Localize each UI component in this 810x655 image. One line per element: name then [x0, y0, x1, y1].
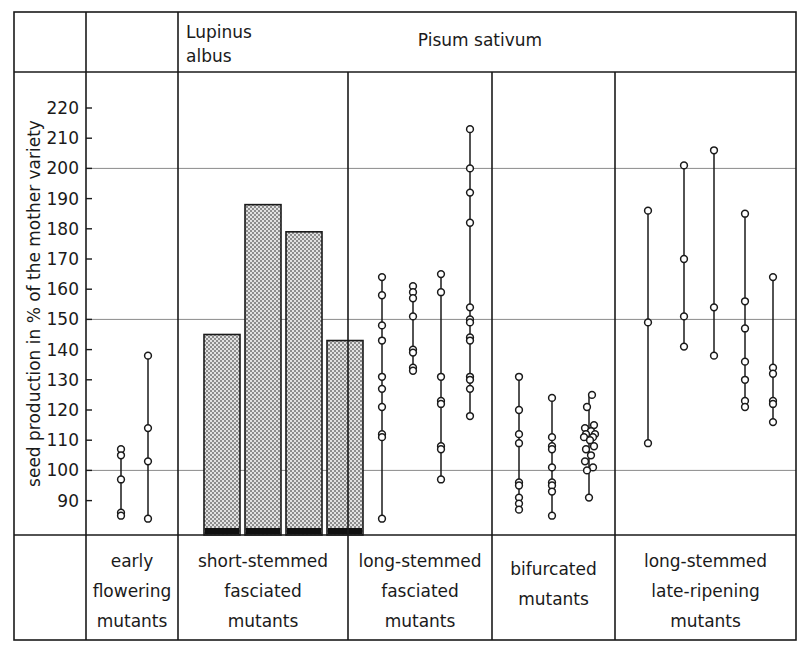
y-tick-label-130: 130 — [47, 370, 79, 390]
figure-root: 2202102001901801701601501401301201101009… — [0, 0, 810, 655]
data-point — [145, 515, 152, 522]
data-point — [549, 395, 556, 402]
footer-label-p2-l2: fasciated — [224, 581, 302, 601]
data-point — [516, 440, 523, 447]
data-point — [145, 425, 152, 432]
bar-3 — [286, 232, 322, 535]
data-point — [681, 313, 688, 320]
footer-label-p3-l2: fasciated — [381, 581, 459, 601]
data-point — [584, 404, 591, 411]
data-point — [645, 440, 652, 447]
data-point — [438, 373, 445, 380]
data-point — [467, 337, 474, 344]
y-tick-label-180: 180 — [47, 219, 79, 239]
data-point — [742, 298, 749, 305]
data-point — [742, 210, 749, 217]
bar-1 — [204, 335, 240, 536]
y-tick-label-160: 160 — [47, 279, 79, 299]
data-point — [582, 458, 589, 465]
y-tick-label-120: 120 — [47, 400, 79, 420]
data-point — [516, 373, 523, 380]
data-point — [681, 343, 688, 350]
data-point — [549, 434, 556, 441]
y-tick-label-190: 190 — [47, 189, 79, 209]
header-lupinus-line2: albus — [186, 46, 232, 66]
y-tick-label-140: 140 — [47, 340, 79, 360]
data-point — [379, 274, 386, 281]
data-point — [549, 464, 556, 471]
data-point — [588, 452, 595, 459]
footer-label-p1-l2: flowering — [93, 581, 172, 601]
bar-base-4 — [328, 528, 362, 534]
data-point — [379, 385, 386, 392]
data-point — [742, 325, 749, 332]
footer-label-p4-l2: mutants — [518, 589, 589, 609]
data-point — [379, 322, 386, 329]
data-point — [516, 407, 523, 414]
data-point — [549, 446, 556, 453]
data-point — [742, 358, 749, 365]
data-point — [549, 488, 556, 495]
data-point — [438, 271, 445, 278]
data-point — [467, 189, 474, 196]
y-tick-label-90: 90 — [57, 491, 79, 511]
data-point — [586, 494, 593, 501]
data-point — [379, 404, 386, 411]
footer-label-p3-l1: long-stemmed — [358, 551, 481, 571]
data-point — [770, 370, 777, 377]
data-point — [770, 401, 777, 408]
bar-4 — [327, 341, 363, 535]
data-point — [118, 476, 125, 483]
data-point — [145, 352, 152, 359]
footer-label-p2-l3: mutants — [228, 611, 299, 631]
bar-base-3 — [287, 528, 321, 534]
data-point — [438, 401, 445, 408]
data-point — [584, 467, 591, 474]
data-point — [118, 452, 125, 459]
data-point — [467, 413, 474, 420]
footer-label-p5-l3: mutants — [670, 611, 741, 631]
data-point — [589, 392, 596, 399]
header-pisum: Pisum sativum — [418, 30, 542, 50]
data-point — [410, 295, 417, 302]
data-point — [711, 147, 718, 154]
data-point — [711, 304, 718, 311]
y-tick-label-220: 220 — [47, 98, 79, 118]
data-point — [118, 512, 125, 519]
data-point — [770, 419, 777, 426]
data-point — [410, 313, 417, 320]
footer-label-p2-l1: short-stemmed — [198, 551, 328, 571]
data-point — [410, 349, 417, 356]
footer-label-p4-l1: bifurcated — [510, 559, 597, 579]
data-point — [516, 506, 523, 513]
data-point — [742, 404, 749, 411]
data-point — [379, 337, 386, 344]
data-point — [549, 512, 556, 519]
data-point — [645, 207, 652, 214]
y-axis-title: seed production in % of the mother varie… — [24, 120, 44, 487]
data-point — [467, 304, 474, 311]
y-tick-label-150: 150 — [47, 309, 79, 329]
bar-2 — [245, 205, 281, 535]
data-point — [645, 319, 652, 326]
data-point — [410, 367, 417, 374]
data-point — [467, 376, 474, 383]
data-point — [438, 476, 445, 483]
footer-label-p1-l1: early — [111, 551, 154, 571]
header-lupinus-line1: Lupinus — [186, 22, 252, 42]
bar-base-2 — [246, 528, 280, 534]
y-tick-label-170: 170 — [47, 249, 79, 269]
data-point — [467, 385, 474, 392]
data-point — [591, 443, 598, 450]
data-point — [516, 482, 523, 489]
data-point — [379, 292, 386, 299]
y-tick-label-200: 200 — [47, 158, 79, 178]
footer-label-p5-l2: late-ripening — [651, 581, 759, 601]
data-point — [742, 376, 749, 383]
bar-base-1 — [205, 528, 239, 534]
data-point — [379, 515, 386, 522]
data-point — [770, 274, 777, 281]
y-tick-label-210: 210 — [47, 128, 79, 148]
seed-production-chart: 2202102001901801701601501401301201101009… — [0, 0, 810, 655]
data-point — [467, 165, 474, 172]
